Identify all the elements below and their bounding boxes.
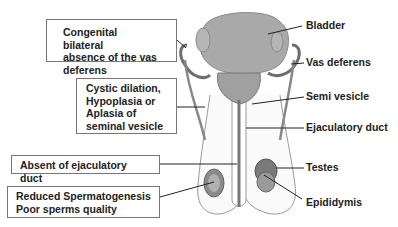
testis-right [255, 159, 277, 192]
sp-line-2: Poor sperms quality [16, 203, 151, 216]
cbavd-box: Congenital bilateral absence of the vas … [46, 19, 177, 62]
cbavd-line-2: absence of the vas [63, 51, 160, 64]
label-ejaculatory-duct: Ejaculatory duct [306, 121, 388, 133]
ed-line-1: Absent of ejaculatory duct [20, 159, 151, 184]
sv-line-3: Aplasia of [86, 107, 167, 120]
label-epididymis: Epididymis [306, 196, 362, 208]
sv-line-2: Hypoplasia or [86, 95, 167, 108]
ejaculatory-duct-box: Absent of ejaculatory duct [11, 155, 160, 174]
sp-line-1: Reduced Spermatogenesis [16, 190, 151, 203]
sv-line-1: Cystic dilation, [86, 82, 167, 95]
seminal-vesicle-box: Cystic dilation, Hypoplasia or Aplasia o… [76, 78, 177, 134]
sv-line-4: seminal vesicle [86, 120, 167, 133]
label-bladder: Bladder [306, 19, 345, 31]
label-testes: Testes [306, 161, 339, 173]
cbavd-line-1: Congenital bilateral [63, 26, 160, 51]
label-semi-vesicle: Semi vesicle [306, 90, 369, 102]
label-vas-deferens: Vas deferens [306, 56, 371, 68]
bladder-shape [196, 13, 289, 74]
spermatogenesis-box: Reduced Spermatogenesis Poor sperms qual… [7, 186, 160, 218]
testis-left [204, 169, 224, 197]
cbavd-line-3: deferens [63, 64, 160, 77]
